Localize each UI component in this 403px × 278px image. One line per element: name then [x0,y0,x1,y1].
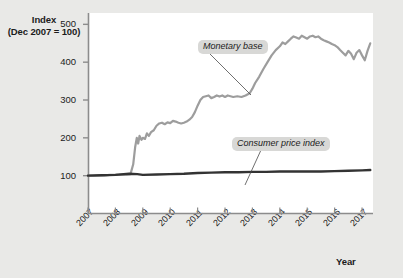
monetary-base-leader-line [208,52,251,95]
x-axis-tick-marks [88,208,362,214]
monetary-base-line [88,36,370,176]
monetary-base-label: Monetary base [198,40,268,54]
consumer-price-index-label: Consumer price index [232,137,330,151]
figure-container: Index (Dec 2007 = 100) Year 100200300400… [0,0,403,278]
consumer-price-index-leader-line [245,150,261,185]
y-axis-tick-marks [83,24,88,175]
